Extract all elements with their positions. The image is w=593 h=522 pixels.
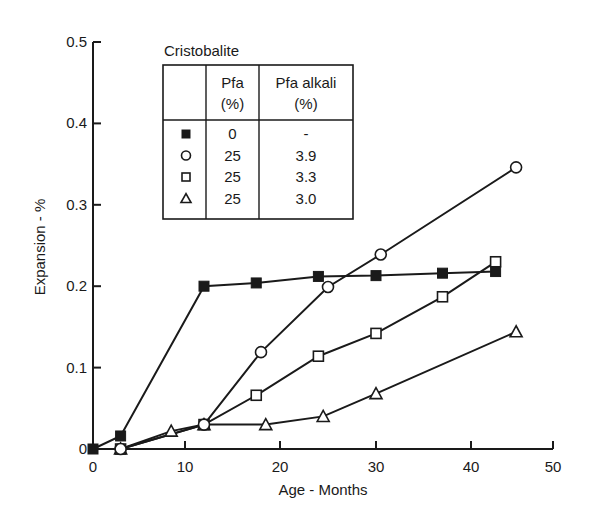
open-square-marker: [438, 292, 448, 302]
series-line-open-square: [121, 262, 496, 449]
filled-square-marker: [371, 271, 381, 281]
x-tick-label: 10: [177, 458, 194, 475]
legend-pfa-value: 25: [224, 190, 241, 207]
y-tick-label: 0.5: [66, 33, 87, 50]
filled-square-marker: [251, 278, 261, 288]
open-triangle-marker: [317, 410, 329, 421]
series-markers-open-square: [116, 257, 501, 454]
filled-square-marker: [88, 444, 98, 454]
x-tick-label: 0: [89, 458, 97, 475]
open-square-marker: [251, 390, 261, 400]
legend-header-pfa-unit: (%): [221, 95, 244, 112]
y-axis-title: Expansion - %: [31, 199, 48, 296]
y-tick-label: 0: [79, 440, 87, 457]
legend-title: Cristobalite: [164, 42, 239, 59]
open-circle-marker: [256, 347, 267, 358]
open-circle-marker: [323, 282, 334, 293]
legend-pfa-alkali-value: 3.0: [296, 190, 317, 207]
open-circle-marker: [199, 419, 210, 430]
filled-square-marker: [199, 281, 209, 291]
legend-pfa-value: 25: [224, 147, 241, 164]
legend-table: CristobalitePfa(%)Pfa alkali(%)0-253.925…: [163, 42, 353, 219]
y-tick-label: 0.4: [66, 114, 87, 131]
y-tick-label: 0.2: [66, 277, 87, 294]
expansion-vs-age-chart: 00.10.20.30.40.501020304050 Cristobalite…: [0, 0, 593, 522]
open-triangle-marker: [510, 326, 522, 337]
open-square-marker: [491, 257, 501, 267]
legend-header-pfa-alkali-unit: (%): [294, 95, 317, 112]
x-tick-label: 20: [272, 458, 289, 475]
open-circle-marker: [182, 151, 191, 160]
filled-square-marker: [313, 271, 323, 281]
legend-pfa-alkali-value: -: [304, 125, 309, 142]
filled-square-marker: [182, 130, 190, 138]
x-tick-label: 30: [368, 458, 385, 475]
open-circle-marker: [511, 162, 522, 173]
legend-pfa-value: 25: [224, 168, 241, 185]
filled-square-marker: [491, 267, 501, 277]
filled-square-marker: [438, 268, 448, 278]
legend-header-pfa: Pfa: [221, 74, 244, 91]
open-circle-marker: [115, 444, 126, 455]
x-tick-label: 40: [463, 458, 480, 475]
series-line-filled-square: [93, 272, 496, 450]
y-tick-label: 0.1: [66, 359, 87, 376]
series-markers-open-triangle: [115, 326, 522, 454]
y-tick-label: 0.3: [66, 196, 87, 213]
x-axis-title: Age - Months: [278, 481, 367, 498]
filled-square-marker: [116, 431, 126, 441]
x-tick-label: 50: [545, 458, 562, 475]
legend-pfa-value: 0: [228, 125, 236, 142]
legend-pfa-alkali-value: 3.3: [296, 168, 317, 185]
open-square-marker: [182, 173, 190, 181]
open-circle-marker: [375, 249, 386, 260]
legend-pfa-alkali-value: 3.9: [296, 147, 317, 164]
open-square-marker: [313, 351, 323, 361]
legend-header-pfa-alkali: Pfa alkali: [276, 74, 337, 91]
open-square-marker: [371, 328, 381, 338]
open-triangle-marker: [370, 388, 382, 399]
